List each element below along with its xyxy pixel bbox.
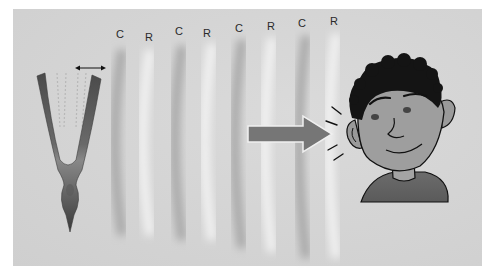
listener-boy xyxy=(347,53,455,202)
band-label-r-3: R xyxy=(267,20,275,32)
rarefaction-band-2 xyxy=(205,44,212,240)
fork-ghost-prongs xyxy=(57,73,86,128)
compression-band-3 xyxy=(235,40,242,248)
tuning-fork xyxy=(37,73,101,232)
rarefaction-band-1 xyxy=(143,50,150,235)
rarefaction-band-3 xyxy=(265,38,272,252)
vibration-arrow-icon xyxy=(75,66,106,71)
fork-stem-highlight xyxy=(66,184,74,196)
fork-body xyxy=(37,73,101,232)
band-label-r-1: R xyxy=(145,31,153,43)
band-label-c-1: C xyxy=(116,28,124,40)
band-label-r-2: R xyxy=(203,27,211,39)
compression-band-2 xyxy=(175,46,182,240)
band-label-c-3: C xyxy=(235,22,243,34)
band-label-c-4: C xyxy=(298,17,306,29)
sound-wave-diagram xyxy=(0,0,490,278)
left-eye xyxy=(371,114,379,120)
band-label-c-2: C xyxy=(175,25,183,37)
compression-band-1 xyxy=(115,50,122,235)
band-label-r-4: R xyxy=(330,15,338,27)
right-eye xyxy=(403,107,411,113)
